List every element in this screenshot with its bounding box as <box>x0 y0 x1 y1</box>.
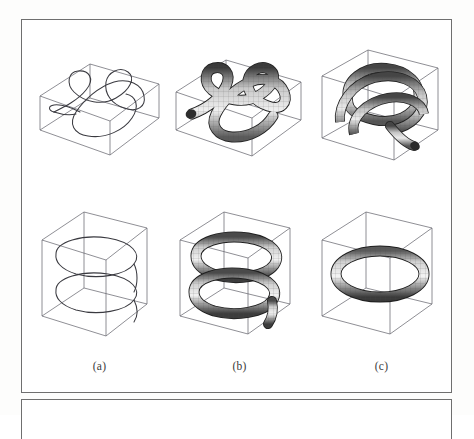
caption-a: (a) <box>28 360 171 372</box>
torus-ring <box>336 251 424 297</box>
space-curve <box>50 70 145 137</box>
caption-row: (a) (b) (c) <box>22 360 451 388</box>
helix-curve <box>56 237 137 322</box>
figure-frame: (a) (b) (c) <box>21 19 452 393</box>
panel-top-a <box>28 26 171 196</box>
tube-tangle <box>340 68 424 152</box>
panel-bottom-b <box>168 198 311 358</box>
panel-bottom-a <box>28 198 171 358</box>
panel-top-b <box>168 26 311 196</box>
tube-knot <box>184 68 285 137</box>
caption-b: (b) <box>168 360 311 372</box>
panel-row-bottom <box>22 198 451 358</box>
tube-helix <box>194 237 277 324</box>
panel-bottom-c <box>310 198 453 358</box>
bounding-box-wireframe <box>42 212 147 336</box>
panel-top-c <box>310 26 453 196</box>
secondary-frame <box>21 399 452 439</box>
panel-row-top <box>22 26 451 196</box>
caption-c: (c) <box>310 360 453 372</box>
